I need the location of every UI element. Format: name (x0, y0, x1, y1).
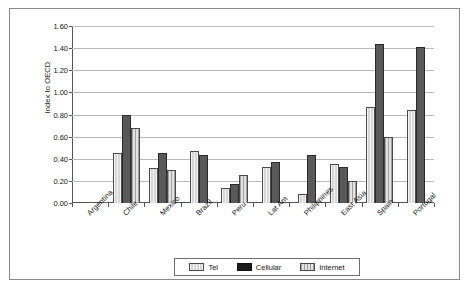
x-tick-mark (325, 203, 326, 207)
legend-label-cellular: Cellular (256, 263, 281, 272)
bar-tel (262, 167, 271, 204)
bar-cellular (416, 47, 425, 203)
bar-group (362, 26, 398, 203)
bar-cellular (230, 184, 239, 203)
x-tick-mark (289, 203, 290, 207)
tel-swatch-icon (189, 263, 204, 271)
x-tick-mark (181, 203, 182, 207)
bar-cellular (122, 115, 131, 204)
y-tick-label: 0.80 (53, 110, 68, 119)
y-axis-title: Index to OECD (43, 18, 52, 158)
legend-item-tel: Tel (189, 263, 218, 272)
y-tick-label: 1.00 (53, 88, 68, 97)
x-tick-mark (362, 203, 363, 207)
bar-group (253, 26, 289, 203)
x-tick-mark (398, 203, 399, 207)
bar-group (289, 26, 325, 203)
chart-legend: Tel Cellular Internet (174, 258, 360, 276)
bar-cellular (158, 153, 167, 203)
x-tick-mark (253, 203, 254, 207)
internet-swatch-icon (300, 263, 315, 271)
bar-tel (149, 168, 158, 203)
x-tick-mark (72, 203, 73, 207)
bar-group (181, 26, 217, 203)
chart-screenshot: Index to OECD 0.000.200.400.600.801.001.… (0, 0, 469, 289)
x-tick-mark (108, 203, 109, 207)
cellular-swatch-icon (237, 263, 252, 271)
bar-group (398, 26, 434, 203)
x-tick-mark (434, 203, 435, 207)
y-tick-label: 1.40 (53, 44, 68, 53)
legend-label-internet: Internet (319, 263, 344, 272)
bar-tel (113, 153, 122, 203)
y-tick-label: 0.00 (53, 199, 68, 208)
bar-cellular (199, 155, 208, 203)
bar-tel (366, 107, 375, 203)
bar-group (217, 26, 253, 203)
legend-item-cellular: Cellular (237, 263, 281, 272)
legend-item-internet: Internet (300, 263, 344, 272)
bar-tel (221, 188, 230, 203)
bar-cellular (375, 44, 384, 203)
legend-label-tel: Tel (208, 263, 218, 272)
y-tick-label: 0.20 (53, 176, 68, 185)
bar-group (325, 26, 361, 203)
bar-tel (298, 194, 307, 203)
y-tick-label: 1.60 (53, 22, 68, 31)
y-tick-label: 1.20 (53, 66, 68, 75)
plot-area: 0.000.200.400.600.801.001.201.401.60 Arg… (72, 26, 434, 203)
bar-group (108, 26, 144, 203)
bar-tel (190, 151, 199, 203)
x-tick-mark (217, 203, 218, 207)
bar-group (144, 26, 180, 203)
bar-cellular (307, 155, 316, 203)
bar-internet (384, 137, 393, 203)
bar-tel (407, 110, 416, 203)
x-tick-mark (144, 203, 145, 207)
bar-cellular (339, 167, 348, 204)
bar-tel (330, 164, 339, 203)
y-tick-label: 0.60 (53, 132, 68, 141)
bar-internet (131, 128, 140, 203)
chart-frame: Index to OECD 0.000.200.400.600.801.001.… (9, 8, 460, 280)
bar-group (72, 26, 108, 203)
y-tick-label: 0.40 (53, 154, 68, 163)
